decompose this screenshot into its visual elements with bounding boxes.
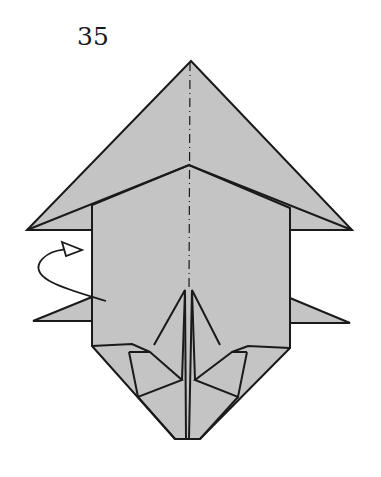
right-side-flap [290, 298, 350, 323]
arrow-head-icon [62, 242, 82, 256]
origami-diagram [0, 0, 381, 477]
left-side-flap [33, 297, 92, 321]
